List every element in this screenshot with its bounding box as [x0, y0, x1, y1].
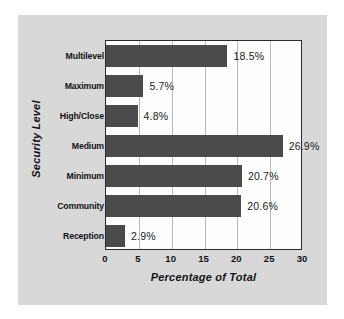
x-tick-label: 0 [102, 253, 107, 264]
bar[interactable] [106, 45, 227, 67]
bar-value-label: 20.7% [248, 170, 279, 182]
x-axis-tick-labels: 051015202530 [105, 253, 302, 267]
x-tick-label: 20 [231, 253, 242, 264]
bar-row: 4.8% [106, 105, 301, 127]
category-label: High/Close [40, 100, 104, 130]
bar-value-label: 2.9% [131, 230, 156, 242]
x-tick-label: 15 [198, 253, 209, 264]
bar-value-label: 5.7% [149, 80, 174, 92]
category-label: Maximum [40, 70, 104, 100]
bars-layer: 18.5%5.7%4.8%26.9%20.7%20.6%2.9% [106, 41, 301, 249]
category-axis-labels: MultilevelMaximumHigh/CloseMediumMinimum… [34, 40, 104, 250]
plot-area: 18.5%5.7%4.8%26.9%20.7%20.6%2.9% [105, 40, 302, 250]
bar[interactable] [106, 75, 143, 97]
category-label: Reception [40, 220, 104, 250]
x-tick-label: 10 [165, 253, 176, 264]
bar[interactable] [106, 195, 241, 217]
bar[interactable] [106, 225, 125, 247]
x-tick-label: 25 [264, 253, 275, 264]
bar-row: 18.5% [106, 45, 301, 67]
bar-value-label: 18.5% [233, 50, 264, 62]
bar-row: 26.9% [106, 135, 301, 157]
bar[interactable] [106, 135, 283, 157]
category-label: Medium [40, 130, 104, 160]
x-tick-label: 30 [297, 253, 308, 264]
category-label: Multilevel [40, 40, 104, 70]
category-label: Minimum [40, 160, 104, 190]
bar-row: 20.7% [106, 165, 301, 187]
bar-row: 5.7% [106, 75, 301, 97]
bar-row: 20.6% [106, 195, 301, 217]
bar-value-label: 20.6% [247, 200, 278, 212]
category-label: Community [40, 190, 104, 220]
x-tick-label: 5 [135, 253, 140, 264]
bar-value-label: 4.8% [144, 110, 169, 122]
x-axis-title: Percentage of Total [105, 271, 302, 283]
bar[interactable] [106, 165, 242, 187]
chart-card: Security Level MultilevelMaximumHigh/Clo… [18, 15, 327, 305]
bar-row: 2.9% [106, 225, 301, 247]
bar-value-label: 26.9% [289, 140, 320, 152]
bar[interactable] [106, 105, 138, 127]
